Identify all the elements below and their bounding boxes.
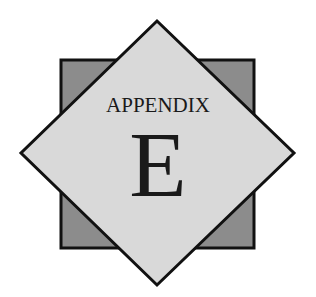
appendix-badge: APPENDIX E (0, 0, 316, 297)
appendix-letter: E (0, 117, 316, 211)
